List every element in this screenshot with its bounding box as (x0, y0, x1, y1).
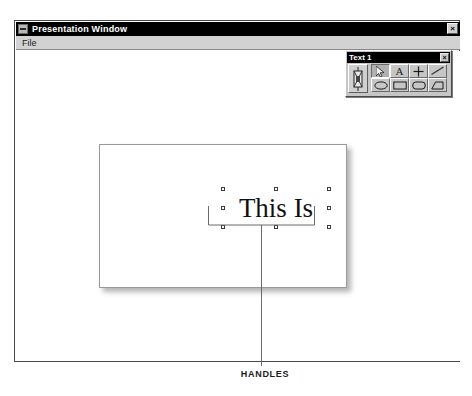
resize-handle-bottom-center[interactable] (274, 225, 278, 229)
presentation-window: Presentation Window × File This Is (14, 20, 460, 362)
resize-handle-middle-left[interactable] (221, 206, 225, 210)
text-tool-button[interactable]: A (390, 64, 409, 78)
tool-palette[interactable]: Text 1 × (345, 50, 452, 97)
pointer-tool-button[interactable] (371, 64, 390, 78)
ellipse-tool-button[interactable] (371, 78, 390, 92)
line-icon (431, 66, 444, 76)
canvas-area[interactable]: This Is (16, 51, 460, 361)
rectangle-tool-button[interactable] (390, 78, 409, 92)
rounded-rectangle-tool-button[interactable] (409, 78, 428, 92)
crosshair-icon (413, 66, 424, 77)
line-tool-button[interactable] (428, 64, 447, 78)
window-menu-icon[interactable] (18, 24, 28, 34)
selected-text-object[interactable]: This Is (224, 190, 328, 226)
handles-caption: HANDLES (0, 369, 472, 379)
resize-handle-bottom-right[interactable] (327, 225, 331, 229)
menu-bar: File (16, 36, 460, 50)
rounded-rectangle-icon (412, 81, 426, 90)
pointer-icon (376, 66, 385, 77)
palette-body: A (347, 64, 450, 95)
polygon-icon (431, 81, 444, 90)
tool-grid: A (371, 64, 447, 92)
text-object-label: This Is (224, 190, 328, 226)
close-icon[interactable]: × (447, 23, 458, 34)
crosshair-tool-button[interactable] (409, 64, 428, 78)
resize-handle-bottom-left[interactable] (221, 225, 225, 229)
handles-caption-text: HANDLES (241, 369, 289, 379)
ellipse-icon (374, 81, 388, 90)
resize-handle-top-right[interactable] (327, 187, 331, 191)
palette-title-bar[interactable]: Text 1 × (347, 52, 450, 63)
window-title-bar[interactable]: Presentation Window × (16, 22, 460, 36)
slide-page[interactable]: This Is (99, 144, 347, 288)
rectangle-icon (393, 81, 407, 90)
object-icon (352, 67, 364, 91)
resize-handle-top-left[interactable] (221, 187, 225, 191)
resize-handle-middle-right[interactable] (327, 206, 331, 210)
palette-title: Text 1 (349, 53, 372, 62)
resize-handle-top-center[interactable] (274, 187, 278, 191)
object-tool-button[interactable] (348, 64, 368, 93)
menu-item-file[interactable]: File (16, 37, 43, 49)
text-tool-label: A (396, 66, 404, 77)
palette-close-icon[interactable]: × (440, 53, 449, 62)
polygon-tool-button[interactable] (428, 78, 447, 92)
window-title: Presentation Window (32, 24, 127, 34)
